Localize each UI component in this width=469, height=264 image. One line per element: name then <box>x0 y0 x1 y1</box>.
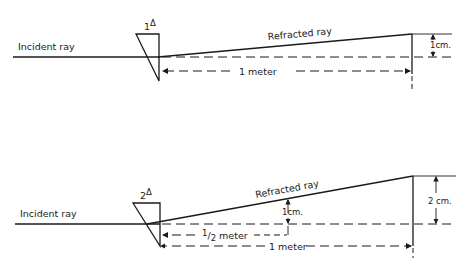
top-prism-power: 1Δ <box>144 18 156 32</box>
bottom-distance-label: 1 meter <box>269 241 307 252</box>
prism-deviation-diagram: Incident ray 1Δ Refracted ray 1 meter 1c… <box>0 0 469 264</box>
bottom-figure: Incident ray 2Δ Refracted ray 1/2 meter … <box>15 176 456 258</box>
bottom-deviation-label: 2 cm. <box>428 196 452 206</box>
top-distance-label: 1 meter <box>239 66 277 77</box>
bottom-incident-label: Incident ray <box>20 208 77 219</box>
bottom-half-deviation-label: 1cm. <box>282 207 303 217</box>
top-refracted-label: Refracted ray <box>267 25 332 42</box>
bottom-prism-power: 2Δ <box>140 187 152 201</box>
bottom-refracted-ray <box>147 176 413 224</box>
top-deviation-label: 1cm. <box>430 40 451 50</box>
bottom-half-distance-label: 1/2 meter <box>202 228 248 243</box>
top-incident-label: Incident ray <box>18 41 75 52</box>
top-figure: Incident ray 1Δ Refracted ray 1 meter 1c… <box>13 18 452 90</box>
bottom-refracted-label: Refracted ray <box>254 178 320 200</box>
